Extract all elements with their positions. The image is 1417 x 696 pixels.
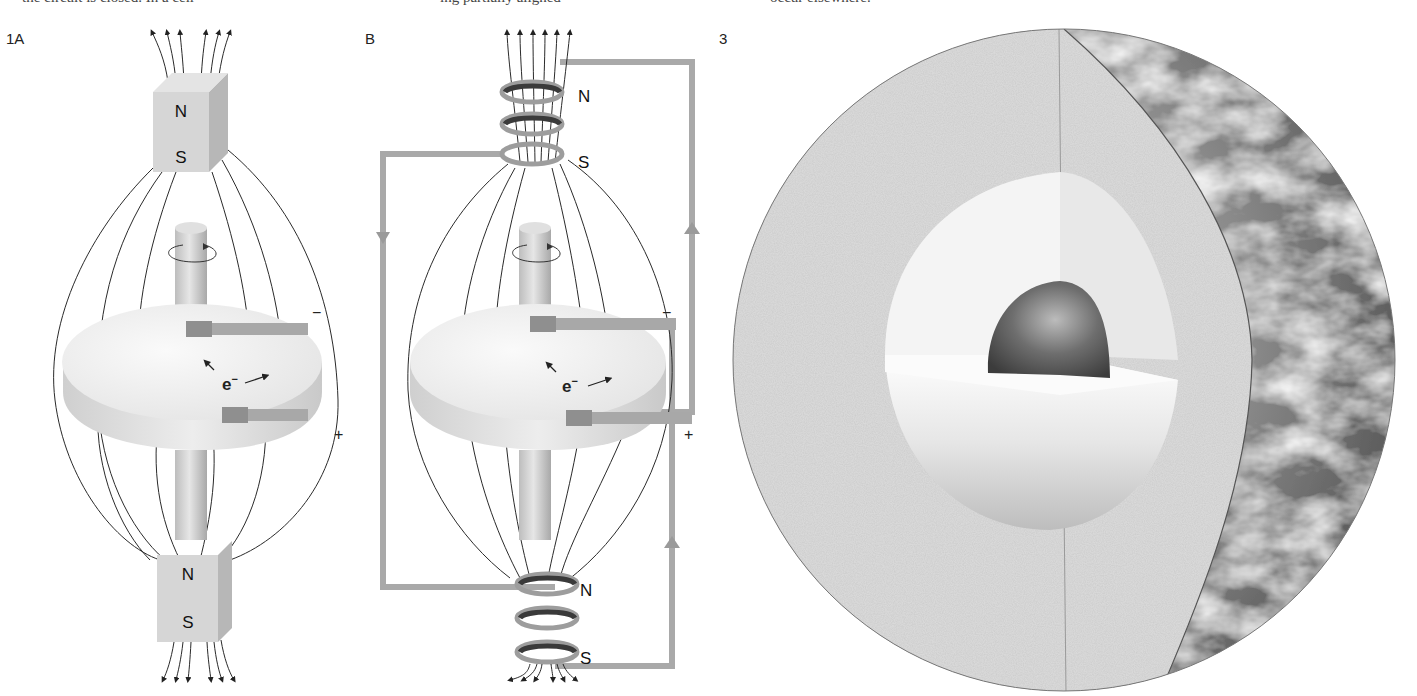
coil-pole-n: N — [578, 87, 590, 106]
bottom-bar-magnet: N S — [157, 541, 232, 642]
pole-label-s: S — [175, 148, 186, 167]
panel-1a-permanent-magnet-dynamo: N S — [54, 32, 344, 680]
rotating-shaft-lower — [175, 450, 207, 540]
coil-pole-n: N — [580, 581, 592, 600]
pole-label-n: N — [175, 102, 187, 121]
terminal-positive: + — [684, 426, 693, 443]
panel-3-earth-cutaway — [733, 29, 1397, 693]
top-coil: N S — [502, 82, 590, 172]
panel-b-self-exciting-dynamo: N S — [376, 32, 700, 680]
coil-pole-s: S — [580, 649, 591, 668]
pole-label-s: S — [182, 613, 193, 632]
terminal-positive: + — [334, 426, 343, 443]
pole-label-n: N — [182, 565, 194, 584]
terminal-negative: − — [662, 304, 671, 321]
rotating-shaft-lower — [519, 450, 551, 540]
top-bar-magnet: N S — [153, 73, 228, 172]
field-lines-bottom-exit — [163, 640, 234, 680]
terminal-negative: − — [312, 304, 321, 321]
